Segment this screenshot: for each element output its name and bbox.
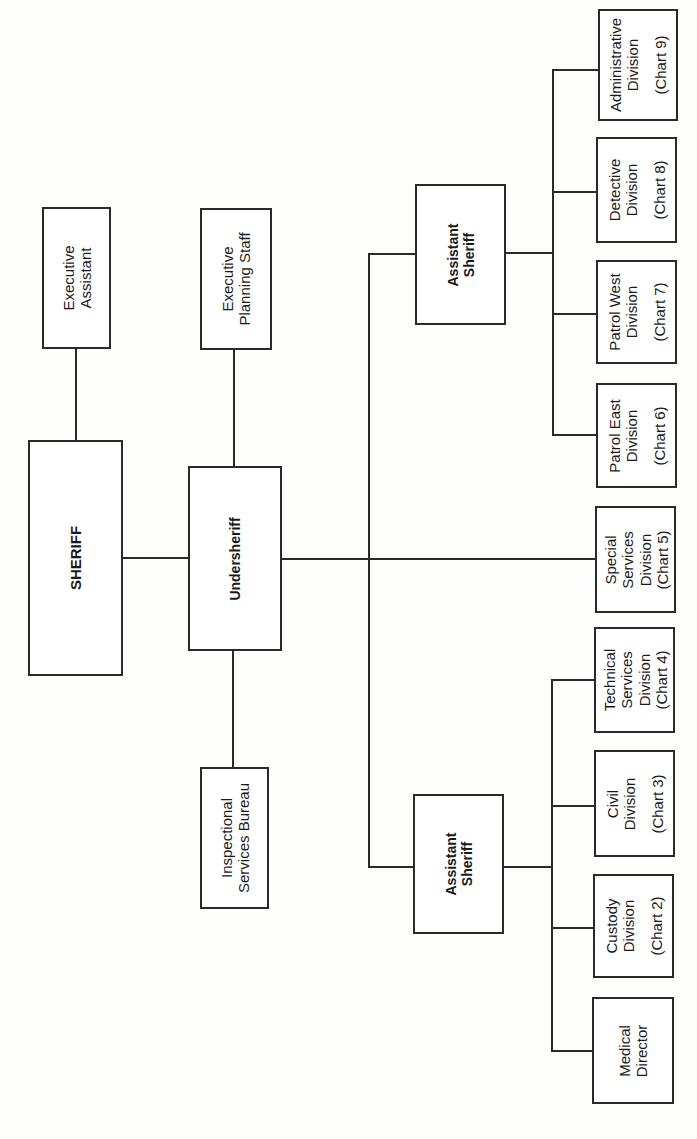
box-detective-division: Detective Division (Chart 8) bbox=[596, 137, 677, 243]
label-detective-division: Detective Division (Chart 8) bbox=[606, 159, 668, 222]
connector-undersheriff-special-services bbox=[281, 558, 595, 560]
label-administrative-division: Administrative Division (Chart 9) bbox=[607, 18, 669, 112]
connector-sheriff-exec-assistant bbox=[75, 348, 77, 440]
connector-backbone-asst-lower bbox=[368, 866, 413, 868]
label-technical-services-division: Technical Services Division (Chart 4) bbox=[600, 649, 669, 712]
box-technical-services-division: Technical Services Division (Chart 4) bbox=[594, 627, 675, 733]
box-assistant-sheriff-lower: Assistant Sheriff bbox=[413, 794, 504, 934]
connector-undersheriff-inspectional bbox=[232, 650, 234, 767]
label-medical-director: Medical Director bbox=[616, 1024, 651, 1077]
label-special-services-division: Special Services Division (Chart 5) bbox=[601, 530, 670, 589]
box-custody-division: Custody Division (Chart 2) bbox=[593, 874, 674, 978]
connector-lower-bus bbox=[551, 679, 553, 1050]
connector-bus-technical bbox=[551, 679, 594, 681]
box-patrol-east-division: Patrol East Division (Chart 6) bbox=[596, 383, 677, 488]
box-administrative-division: Administrative Division (Chart 9) bbox=[598, 9, 678, 121]
box-assistant-sheriff-upper: Assistant Sheriff bbox=[415, 184, 506, 325]
connector-asst-lower-bus bbox=[503, 866, 551, 868]
connector-sheriff-undersheriff bbox=[122, 557, 188, 559]
label-assistant-sheriff-upper: Assistant Sheriff bbox=[444, 223, 476, 286]
label-assistant-sheriff-lower: Assistant Sheriff bbox=[442, 832, 474, 895]
box-sheriff: SHERIFF bbox=[28, 440, 123, 676]
box-executive-assistant: Executive Assistant bbox=[42, 207, 111, 349]
connector-bus-medical bbox=[551, 1050, 592, 1052]
box-civil-division: Civil Division (Chart 3) bbox=[594, 750, 675, 857]
connector-bus-administrative bbox=[552, 69, 598, 71]
label-civil-division: Civil Division (Chart 3) bbox=[604, 774, 666, 833]
label-undersheriff: Undersheriff bbox=[227, 517, 243, 600]
box-inspectional-services-bureau: Inspectional Services Bureau bbox=[200, 767, 269, 909]
connector-bus-civil bbox=[551, 805, 594, 807]
connector-asst-upper-bus bbox=[505, 252, 552, 254]
connector-bus-patrol-east bbox=[552, 434, 596, 436]
connector-undersheriff-planning-staff bbox=[233, 349, 235, 466]
org-chart-canvas: Executive Assistant SHERIFF Executive Pl… bbox=[0, 0, 697, 1139]
label-patrol-east-division: Patrol East Division (Chart 6) bbox=[606, 399, 668, 472]
connector-bus-detective bbox=[552, 191, 596, 193]
connector-backbone-asst-upper bbox=[368, 253, 415, 255]
label-sheriff: SHERIFF bbox=[67, 526, 84, 590]
box-undersheriff: Undersheriff bbox=[188, 466, 282, 651]
connector-upper-bus bbox=[552, 69, 554, 435]
label-custody-division: Custody Division (Chart 2) bbox=[603, 896, 665, 955]
box-medical-director: Medical Director bbox=[592, 997, 674, 1104]
label-inspectional-services-bureau: Inspectional Services Bureau bbox=[217, 783, 252, 893]
connector-backbone bbox=[368, 253, 370, 867]
label-executive-assistant: Executive Assistant bbox=[59, 245, 94, 310]
connector-bus-patrol-west bbox=[552, 313, 596, 315]
box-executive-planning-staff: Executive Planning Staff bbox=[200, 208, 272, 350]
label-patrol-west-division: Patrol West Division (Chart 7) bbox=[606, 273, 668, 350]
label-executive-planning-staff: Executive Planning Staff bbox=[219, 232, 254, 325]
box-patrol-west-division: Patrol West Division (Chart 7) bbox=[596, 260, 677, 364]
box-special-services-division: Special Services Division (Chart 5) bbox=[595, 506, 676, 613]
connector-bus-custody bbox=[551, 927, 593, 929]
